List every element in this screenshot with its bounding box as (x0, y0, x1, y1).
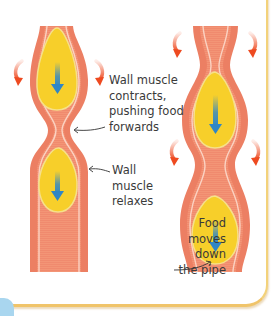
label-wall-muscle-relaxes: Wall muscle relaxes (112, 163, 153, 210)
label-wall-muscle-contracts: Wall muscle contracts, pushing food forw… (109, 73, 184, 135)
left-tube (14, 26, 110, 272)
peristalsis-diagram (0, 0, 274, 316)
label-food-moves-down: Food moves down the pipe (160, 216, 226, 278)
